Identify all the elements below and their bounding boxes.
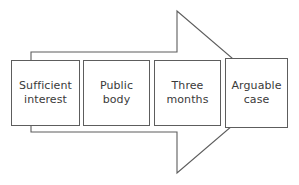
stage-box-sufficient-interest[interactable]: Sufficient interest: [11, 60, 80, 126]
stage-box-three-months[interactable]: Three months: [154, 60, 221, 126]
stage-box-public-body[interactable]: Public body: [83, 60, 150, 126]
stage-label: Arguable case: [229, 79, 283, 107]
stage-label: Public body: [98, 79, 135, 107]
process-arrow-diagram: Sufficient interest Public body Three mo…: [0, 0, 299, 185]
stage-label: Sufficient interest: [17, 79, 74, 107]
stage-box-arguable-case[interactable]: Arguable case: [225, 58, 288, 128]
stage-label: Three months: [164, 79, 210, 107]
